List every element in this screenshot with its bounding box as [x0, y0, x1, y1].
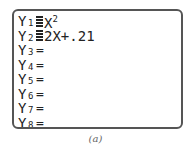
function-row-y3[interactable]: Y 3 = [18, 43, 95, 58]
function-name: Y [18, 116, 28, 130]
function-row-y7[interactable]: Y 7 = [18, 101, 95, 116]
function-index: 5 [28, 74, 36, 89]
equals-sign[interactable]: = [36, 43, 44, 58]
selected-equals-icon[interactable] [36, 30, 43, 41]
equals-sign[interactable]: = [36, 116, 44, 130]
function-name: Y [18, 43, 28, 58]
function-row-y5[interactable]: Y 5 = [18, 72, 95, 87]
function-name: Y [18, 14, 28, 29]
function-name: Y [18, 101, 28, 116]
function-index: 4 [28, 60, 36, 75]
function-index: 8 [28, 118, 36, 130]
function-index: 7 [28, 103, 36, 118]
function-index: 2 [28, 31, 36, 46]
y-editor-list: Y 1 X2 Y 2 2X+.21 Y 3 = Y 4 = Y 5 = [18, 14, 95, 129]
equals-sign[interactable]: = [36, 72, 44, 87]
function-name: Y [18, 29, 28, 44]
function-index: 6 [28, 89, 36, 104]
function-row-y4[interactable]: Y 4 = [18, 58, 95, 73]
figure-caption: (a) [0, 133, 191, 144]
function-expression[interactable]: 2X+.21 [44, 29, 95, 44]
function-name: Y [18, 87, 28, 102]
function-row-y2[interactable]: Y 2 2X+.21 [18, 29, 95, 44]
function-row-y1[interactable]: Y 1 X2 [18, 14, 95, 29]
selected-equals-icon[interactable] [36, 16, 43, 27]
equals-sign[interactable]: = [36, 101, 44, 116]
calculator-screen: Y 1 X2 Y 2 2X+.21 Y 3 = Y 4 = Y 5 = [12, 9, 183, 129]
function-row-y8[interactable]: Y 8 = [18, 116, 95, 130]
function-name: Y [18, 72, 28, 87]
function-index: 1 [28, 16, 36, 31]
function-index: 3 [28, 45, 36, 60]
equals-sign[interactable]: = [36, 87, 44, 102]
function-row-y6[interactable]: Y 6 = [18, 87, 95, 102]
function-name: Y [18, 58, 28, 73]
equals-sign[interactable]: = [36, 58, 44, 73]
